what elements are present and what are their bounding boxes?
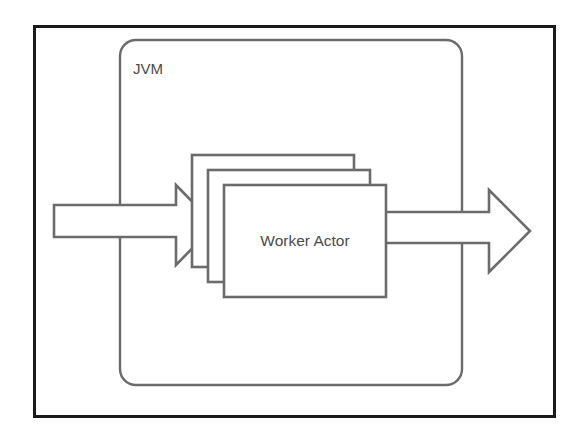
- output-arrow: [385, 190, 530, 272]
- worker-actor-label: Worker Actor: [260, 232, 349, 249]
- diagram-canvas: JVM Worker Actor: [0, 0, 587, 438]
- jvm-label: JVM: [133, 60, 163, 77]
- architecture-diagram: JVM Worker Actor: [0, 0, 587, 438]
